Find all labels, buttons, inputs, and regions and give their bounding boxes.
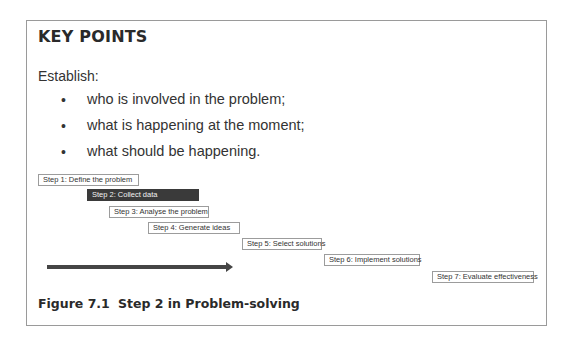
bullet-item: what should be happening.	[87, 143, 260, 159]
progress-arrow-shaft	[47, 265, 227, 269]
step-2-box-highlighted: Step 2: Collect data	[87, 189, 199, 201]
bullet-icon: •	[61, 92, 66, 108]
step-5-box: Step 5: Select solutions	[242, 238, 322, 250]
step-1-box: Step 1: Define the problem	[38, 174, 139, 186]
arrow-right-icon	[226, 262, 233, 272]
intro-text: Establish:	[38, 68, 99, 84]
figure-title: Step 2 in Problem-solving	[118, 296, 300, 311]
key-points-heading: KEY POINTS	[38, 27, 148, 46]
step-3-box: Step 3: Analyse the problem	[109, 206, 209, 218]
bullet-icon: •	[61, 144, 66, 160]
bullet-icon: •	[61, 118, 66, 134]
bullet-item: what is happening at the moment;	[87, 117, 305, 133]
step-4-box: Step 4: Generate ideas	[148, 222, 240, 234]
bullet-item: who is involved in the problem;	[87, 91, 285, 107]
step-7-box: Step 7: Evaluate effectiveness	[432, 271, 534, 283]
step-6-box: Step 6: Implement solutions	[324, 254, 420, 266]
figure-number: Figure 7.1	[38, 296, 110, 311]
